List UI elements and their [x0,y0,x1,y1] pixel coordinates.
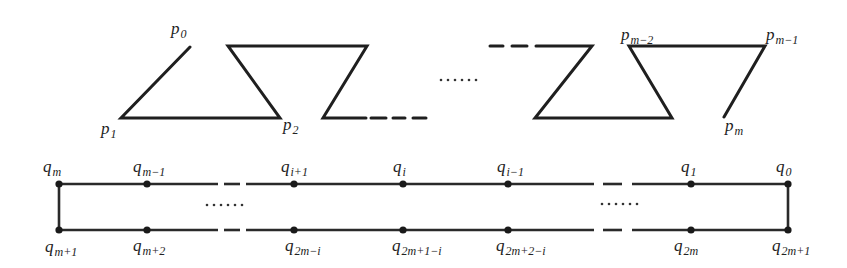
point-qi+1 [290,180,297,187]
point-qm [55,180,62,187]
label-pm-1: pm−1 [766,26,798,46]
diagram-canvas [0,0,847,268]
segment-right-chain [535,46,765,118]
label-pm: pm [725,117,743,137]
label-q1: q1 [681,158,697,178]
point-q2m+1-i [399,226,406,233]
label-qi: qi [393,158,406,178]
label-q2m+2-i: q2m+2−i [496,237,546,257]
bottom-loop [55,180,791,233]
label-p2: p2 [283,116,299,136]
point-qi-1 [504,180,511,187]
point-qm+1 [55,226,62,233]
label-q2m+1: q2m+1 [772,237,810,257]
ellipsis-dots-right [601,203,639,206]
point-qm-1 [143,180,150,187]
point-qm+2 [143,226,150,233]
label-p1: p1 [101,120,117,140]
label-qm: qm [43,158,61,178]
label-q2m: q2m [674,237,698,257]
label-q0: q0 [776,158,792,178]
label-p0: p0 [171,20,187,40]
label-qi-1: qi−1 [497,158,524,178]
ellipsis-dots-top [440,79,478,82]
label-q2m+1-i: q2m+1−i [392,237,442,257]
point-q2m+1 [784,226,791,233]
point-q2m [687,226,694,233]
label-qi+1: qi+1 [281,158,308,178]
label-q2m-i: q2m−i [285,237,321,257]
label-pm-2: pm−2 [621,26,653,46]
point-q2m-i [290,226,297,233]
point-q1 [687,180,694,187]
ellipsis-dots-left [206,204,244,207]
segment-p0-to-top [121,46,367,118]
label-qm+1: qm+1 [45,238,77,258]
point-qi [399,180,406,187]
label-qm-1: qm−1 [133,158,165,178]
label-qm+2: qm+2 [133,237,165,257]
top-polyline [121,46,765,118]
point-q0 [784,180,791,187]
point-q2m+2-i [504,226,511,233]
